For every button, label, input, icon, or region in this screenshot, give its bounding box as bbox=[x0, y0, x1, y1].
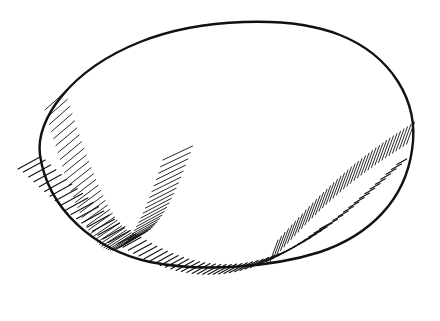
body-shading-hatching bbox=[45, 92, 415, 262]
egg-stone-drawing bbox=[0, 0, 440, 321]
illustration-canvas bbox=[0, 0, 440, 321]
